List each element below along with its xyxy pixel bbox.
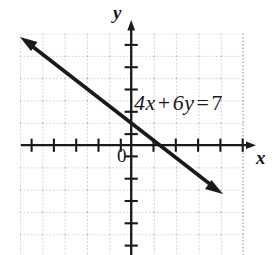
- equation-term-2: 6y: [173, 90, 195, 115]
- graph-figure: 4x+6y=7 y x 0: [0, 0, 276, 255]
- x-axis-label: x: [256, 148, 266, 167]
- equation-rhs: 7: [211, 90, 223, 115]
- origin-label: 0: [117, 146, 127, 165]
- coordinate-plane: [0, 0, 276, 255]
- equation-term-1: 4x: [134, 90, 156, 115]
- equation-equals-operator: =: [194, 90, 211, 115]
- equation-annotation: 4x+6y=7: [134, 92, 223, 114]
- y-axis-label: y: [113, 3, 121, 22]
- equation-plus-operator: +: [156, 90, 173, 115]
